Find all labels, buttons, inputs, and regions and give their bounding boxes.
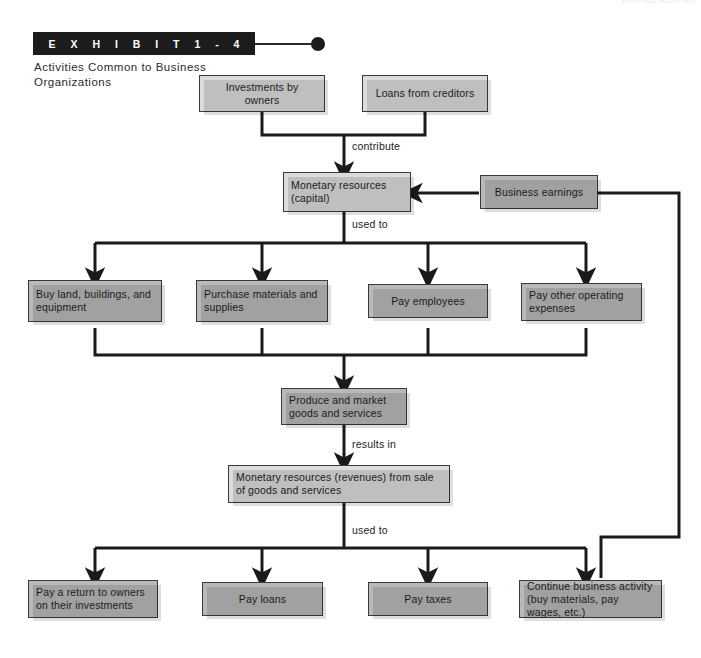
node-label: Monetary resources (revenues) from sale … (236, 471, 442, 497)
node-monetary-resources-capital[interactable]: Monetary resources (capital) (283, 172, 411, 212)
node-label: Continue business activity (buy material… (527, 580, 654, 619)
connector-lines (0, 0, 701, 658)
node-label: Produce and market goods and services (289, 394, 399, 420)
node-label: Pay a return to owners on their investme… (36, 586, 150, 612)
node-label: Buy land, buildings, and equipment (36, 288, 154, 314)
diagram-canvas: Business Activities E X H I B I T 1 - 4 … (0, 0, 701, 658)
node-label: Business earnings (495, 186, 583, 199)
node-produce-and-market[interactable]: Produce and market goods and services (281, 388, 407, 425)
node-pay-other-operating-expenses[interactable]: Pay other operating expenses (521, 283, 642, 321)
edge-label-contribute: contribute (352, 140, 400, 152)
node-label: Purchase materials and supplies (204, 288, 320, 314)
edge-label-used-to-2: used to (352, 524, 388, 536)
node-monetary-resources-revenues[interactable]: Monetary resources (revenues) from sale … (228, 465, 450, 503)
node-label: Loans from creditors (376, 87, 475, 100)
node-pay-loans[interactable]: Pay loans (202, 582, 323, 616)
node-label: Pay other operating expenses (529, 289, 634, 315)
edge-label-used-to-1: used to (352, 218, 388, 230)
node-label: Investments by owners (207, 81, 317, 107)
node-label: Pay employees (391, 295, 465, 308)
node-label: Pay taxes (404, 593, 451, 606)
node-continue-business-activity[interactable]: Continue business activity (buy material… (519, 580, 662, 618)
node-label: Pay loans (239, 593, 286, 606)
node-business-earnings[interactable]: Business earnings (480, 175, 598, 209)
node-purchase-materials-supplies[interactable]: Purchase materials and supplies (196, 280, 328, 322)
node-loans-from-creditors[interactable]: Loans from creditors (362, 75, 488, 112)
node-pay-a-return-to-owners[interactable]: Pay a return to owners on their investme… (28, 580, 158, 618)
node-investments-by-owners[interactable]: Investments by owners (199, 75, 325, 112)
edge-label-results-in: results in (352, 438, 396, 450)
node-label: Monetary resources (capital) (291, 179, 403, 205)
node-pay-taxes[interactable]: Pay taxes (368, 582, 488, 616)
node-buy-land-buildings-equipment[interactable]: Buy land, buildings, and equipment (28, 280, 162, 322)
node-pay-employees[interactable]: Pay employees (368, 284, 488, 318)
